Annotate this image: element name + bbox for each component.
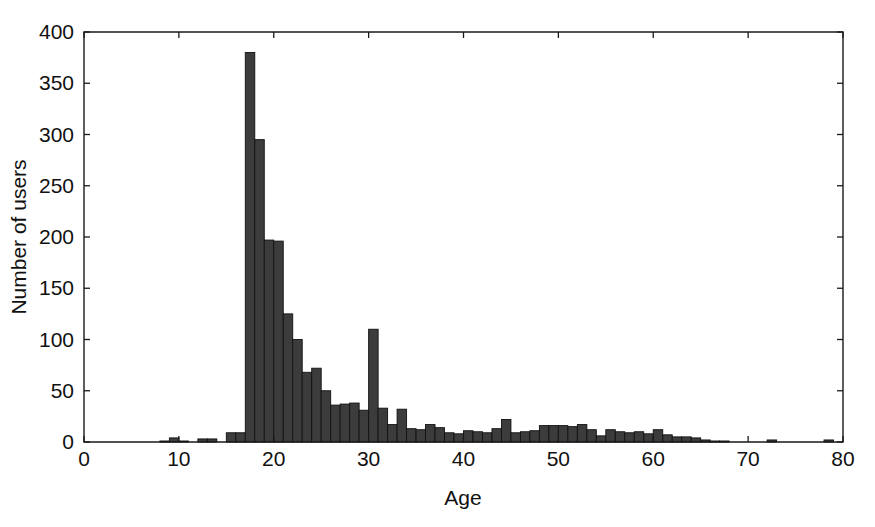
histogram-figure: 01020304050607080 0501001502002503003504… <box>0 0 875 527</box>
histogram-bar <box>473 432 482 442</box>
x-tick-label: 50 <box>547 447 570 470</box>
x-tick-label: 10 <box>167 447 190 470</box>
histogram-bar <box>236 433 245 442</box>
y-tick-label: 350 <box>39 71 74 94</box>
histogram-bar <box>464 431 473 442</box>
y-tick-label: 400 <box>39 20 74 43</box>
y-tick-label: 300 <box>39 123 74 146</box>
x-tick-label: 40 <box>452 447 475 470</box>
histogram-bar <box>350 403 359 442</box>
histogram-bar <box>226 433 235 442</box>
histogram-bar <box>435 428 444 442</box>
histogram-bar <box>331 405 340 442</box>
histogram-bar <box>492 429 501 442</box>
chart-svg: 01020304050607080 0501001502002503003504… <box>0 0 875 527</box>
histogram-bar <box>625 433 634 442</box>
y-tick-label: 200 <box>39 225 74 248</box>
histogram-bar <box>264 240 273 442</box>
y-tick-label: 50 <box>51 379 74 402</box>
histogram-bar <box>340 404 349 442</box>
histogram-bar <box>501 419 510 442</box>
histogram-bar <box>312 368 321 442</box>
x-tick-label: 0 <box>78 447 90 470</box>
histogram-bar <box>482 433 491 442</box>
histogram-bar <box>577 425 586 442</box>
y-tick-label: 0 <box>62 430 74 453</box>
histogram-bar <box>653 430 662 442</box>
histogram-bar <box>634 432 643 442</box>
histogram-bar <box>293 340 302 443</box>
y-tick-label: 150 <box>39 276 74 299</box>
histogram-bar <box>454 434 463 442</box>
x-tick-label: 20 <box>262 447 285 470</box>
histogram-bar <box>568 427 577 442</box>
histogram-bar <box>369 329 378 442</box>
histogram-bar <box>274 241 283 442</box>
histogram-bar <box>587 430 596 442</box>
y-axis-title: Number of users <box>7 159 30 314</box>
histogram-bar <box>378 408 387 442</box>
histogram-bar <box>302 372 311 442</box>
histogram-bar <box>549 426 558 442</box>
histogram-bar <box>321 391 330 442</box>
histogram-bar <box>407 429 416 442</box>
histogram-bar <box>520 432 529 442</box>
x-axis-title: Age <box>444 486 481 509</box>
x-tick-label: 80 <box>831 447 854 470</box>
histogram-bar <box>682 437 691 442</box>
histogram-bar <box>615 432 624 442</box>
x-tick-label: 60 <box>642 447 665 470</box>
histogram-bar <box>255 140 264 442</box>
histogram-bar <box>539 426 548 442</box>
histogram-bar <box>416 430 425 442</box>
x-tick-label: 30 <box>357 447 380 470</box>
histogram-bar <box>445 433 454 442</box>
histogram-bar <box>397 409 406 442</box>
histogram-bar <box>672 437 681 442</box>
histogram-bar <box>426 425 435 442</box>
histogram-bar <box>511 433 520 442</box>
histogram-bar <box>359 410 368 442</box>
histogram-bar <box>245 53 254 443</box>
histogram-bar <box>283 314 292 442</box>
histogram-bar <box>558 426 567 442</box>
histogram-bar <box>388 425 397 442</box>
histogram-bar <box>596 436 605 442</box>
histogram-bar <box>644 434 653 442</box>
histogram-bar <box>663 435 672 442</box>
x-tick-label: 70 <box>736 447 759 470</box>
histogram-bar <box>606 430 615 442</box>
y-tick-label: 100 <box>39 328 74 351</box>
histogram-bar <box>530 431 539 442</box>
y-tick-label: 250 <box>39 174 74 197</box>
